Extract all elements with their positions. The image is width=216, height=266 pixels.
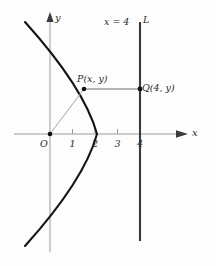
x-axis-label: x [192, 128, 198, 138]
y-axis-label: y [55, 13, 61, 23]
x-axis-arrowhead [176, 130, 188, 138]
geometry-figure: y x O 1 2 3 4 P(x, y) Q(4, y) x = 4 L [0, 0, 216, 266]
segment-op [50, 89, 84, 134]
point-p-label: P(x, y) [77, 74, 108, 84]
directrix-equation-label: x = 4 [104, 17, 129, 27]
x-tick-label-3: 3 [115, 139, 121, 149]
point-o-marker [48, 132, 53, 137]
x-tick-label-2: 2 [92, 139, 98, 149]
point-p-marker [82, 87, 87, 92]
directrix-name-label: L [143, 15, 149, 25]
point-q-label: Q(4, y) [142, 83, 175, 93]
origin-label: O [40, 139, 48, 149]
x-tick-label-1: 1 [70, 139, 76, 149]
y-axis-arrowhead [46, 12, 53, 22]
x-tick-label-4: 4 [137, 139, 143, 149]
figure-canvas [0, 0, 216, 266]
